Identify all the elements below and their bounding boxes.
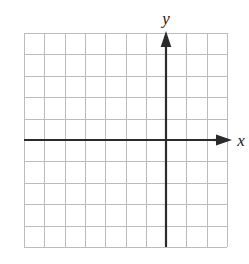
- coordinate-plane-canvas: y x: [0, 0, 249, 264]
- coordinate-plane-figure: y x: [0, 0, 249, 264]
- figure-background: [0, 0, 249, 264]
- y-axis-label: y: [160, 9, 170, 28]
- x-axis-label: x: [236, 131, 245, 150]
